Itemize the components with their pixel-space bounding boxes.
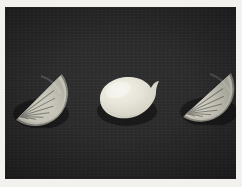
lemon-center-graphic [93, 69, 165, 127]
wedge-right-graphic [177, 69, 236, 125]
lemon-center [93, 69, 165, 127]
wedge-left-graphic [11, 70, 79, 128]
photo-frame [5, 7, 236, 179]
wedge-left [11, 70, 79, 128]
photo-canvas [0, 0, 242, 187]
wedge-right [177, 69, 236, 125]
